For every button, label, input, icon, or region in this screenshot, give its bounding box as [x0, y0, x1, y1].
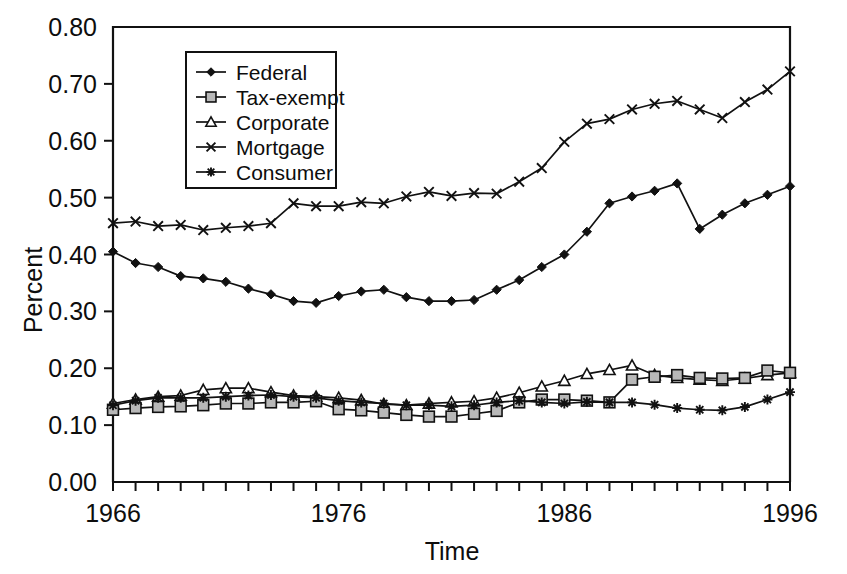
legend-label: Consumer — [236, 161, 333, 184]
y-axis-tick-labels: 0.000.100.200.300.400.500.600.700.80 — [48, 13, 97, 496]
y-tick-label: 0.20 — [48, 354, 97, 382]
chart-background — [0, 0, 847, 574]
legend-marker-gray-square-icon — [206, 92, 216, 102]
x-axis-title: Time — [425, 537, 480, 565]
y-axis-title: Percent — [19, 247, 47, 333]
y-tick-label: 0.70 — [48, 70, 97, 98]
chart-canvas: 0.000.100.200.300.400.500.600.700.80 196… — [0, 0, 847, 574]
x-tick-label: 1986 — [537, 499, 593, 527]
x-tick-label: 1976 — [311, 499, 367, 527]
y-tick-label: 0.10 — [48, 411, 97, 439]
y-tick-label: 0.80 — [48, 13, 97, 41]
y-tick-label: 0.60 — [48, 127, 97, 155]
y-tick-label: 0.40 — [48, 241, 97, 269]
legend-label: Federal — [236, 61, 307, 84]
y-tick-label: 0.50 — [48, 184, 97, 212]
x-tick-label: 1966 — [85, 499, 141, 527]
chart-legend: FederalTax-exemptCorporateMortgageConsum… — [186, 52, 345, 188]
line-chart: 0.000.100.200.300.400.500.600.700.80 196… — [0, 0, 847, 574]
legend-marker-asterisk-icon — [206, 167, 215, 176]
legend-label: Tax-exempt — [236, 86, 345, 109]
y-tick-label: 0.30 — [48, 297, 97, 325]
y-tick-label: 0.00 — [48, 468, 97, 496]
x-tick-label: 1996 — [762, 499, 818, 527]
legend-label: Corporate — [236, 111, 329, 134]
legend-label: Mortgage — [236, 136, 325, 159]
